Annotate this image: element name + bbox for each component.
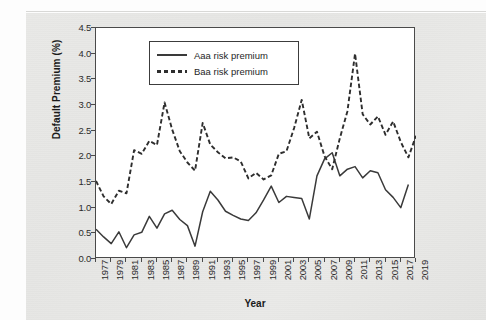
legend-item-baa: Baa risk premium xyxy=(157,63,291,79)
y-axis-tick-label: 4.5 xyxy=(78,22,91,33)
x-axis-tick-mark xyxy=(415,258,416,262)
x-axis-tick-label: 2015 xyxy=(389,260,400,280)
plot-area: Aaa risk premium Baa risk premium xyxy=(95,27,415,258)
y-axis-tick-mark xyxy=(91,53,95,54)
x-axis-tick-label: 2001 xyxy=(282,260,293,280)
x-axis-tick-mark xyxy=(186,258,187,262)
legend-line-solid-icon xyxy=(157,50,187,60)
x-axis-tick-label: 2017 xyxy=(404,260,415,280)
x-axis-tick-label: 1993 xyxy=(221,260,232,280)
x-axis-tick-label: 1989 xyxy=(190,260,201,280)
y-axis-tick-mark xyxy=(91,232,95,233)
page-canvas: Default Premium (%) 4.54.03.53.02.52.01.… xyxy=(0,0,486,320)
x-axis-tick-mark xyxy=(202,258,203,262)
y-axis-tick-label: 0.5 xyxy=(78,227,91,238)
x-axis-tick-label: 1985 xyxy=(160,260,171,280)
y-axis-tick-mark xyxy=(91,104,95,105)
y-axis-tick-label: 4.0 xyxy=(78,47,91,58)
series-line-aaa xyxy=(96,153,408,248)
chart-legend: Aaa risk premium Baa risk premium xyxy=(149,41,299,85)
x-axis-tick-label: 2019 xyxy=(419,260,430,280)
y-axis-tick-labels: 4.54.03.53.02.52.01.51.00.50.0 xyxy=(58,27,91,258)
x-axis-tick-mark xyxy=(156,258,157,262)
x-axis-tick-mark xyxy=(171,258,172,262)
y-axis-tick-mark xyxy=(91,78,95,79)
x-axis-tick-mark xyxy=(141,258,142,262)
x-axis-tick-mark xyxy=(339,258,340,262)
x-axis-tick-labels: 1977197919811983198519871989199119931995… xyxy=(95,260,415,302)
y-axis-tick-mark xyxy=(91,130,95,131)
x-axis-tick-mark xyxy=(125,258,126,262)
x-axis-tick-mark xyxy=(110,258,111,262)
x-axis-title: Year xyxy=(95,298,415,309)
legend-label-aaa: Aaa risk premium xyxy=(194,50,268,61)
y-axis-tick-mark xyxy=(91,27,95,28)
y-axis-tick-label: 3.0 xyxy=(78,99,91,110)
y-axis-tick-label: 2.0 xyxy=(78,150,91,161)
x-axis-tick-mark xyxy=(400,258,401,262)
x-axis-tick-label: 2013 xyxy=(373,260,384,280)
y-axis-tick-mark xyxy=(91,207,95,208)
x-axis-tick-label: 1977 xyxy=(99,260,110,280)
x-axis-tick-mark xyxy=(354,258,355,262)
y-axis-tick-mark xyxy=(91,155,95,156)
x-axis-tick-label: 2003 xyxy=(297,260,308,280)
page-edge-hairline xyxy=(26,11,486,12)
x-axis-tick-label: 1991 xyxy=(206,260,217,280)
x-axis-tick-label: 2009 xyxy=(343,260,354,280)
legend-item-aaa: Aaa risk premium xyxy=(157,47,291,63)
x-axis-tick-mark xyxy=(308,258,309,262)
x-axis-tick-mark xyxy=(278,258,279,262)
page-edge-left xyxy=(0,0,26,320)
x-axis-tick-label: 1983 xyxy=(145,260,156,280)
legend-line-dashed-icon xyxy=(157,66,187,76)
y-axis-tick-label: 0.0 xyxy=(78,253,91,264)
x-axis-tick-mark xyxy=(293,258,294,262)
x-axis-tick-mark xyxy=(95,258,96,262)
x-axis-tick-label: 2011 xyxy=(358,260,369,280)
x-axis-tick-mark xyxy=(369,258,370,262)
x-axis-tick-label: 1979 xyxy=(114,260,125,280)
x-axis-tick-label: 1999 xyxy=(267,260,278,280)
x-axis-tick-mark xyxy=(324,258,325,262)
y-axis-tick-label: 1.5 xyxy=(78,176,91,187)
x-axis-tick-mark xyxy=(247,258,248,262)
x-axis-tick-mark xyxy=(217,258,218,262)
x-axis-tick-mark xyxy=(232,258,233,262)
x-axis-tick-label: 1997 xyxy=(251,260,262,280)
y-axis-tick-label: 2.5 xyxy=(78,124,91,135)
x-axis-tick-label: 1987 xyxy=(175,260,186,280)
x-axis-tick-mark xyxy=(385,258,386,262)
y-axis-tick-label: 3.5 xyxy=(78,73,91,84)
x-axis-tick-label: 1995 xyxy=(236,260,247,280)
y-axis-tick-label: 1.0 xyxy=(78,201,91,212)
x-axis-tick-label: 2007 xyxy=(328,260,339,280)
y-axis-tick-mark xyxy=(91,181,95,182)
x-axis-tick-mark xyxy=(263,258,264,262)
x-axis-tick-label: 1981 xyxy=(129,260,140,280)
legend-label-baa: Baa risk premium xyxy=(194,66,268,77)
x-axis-tick-label: 2005 xyxy=(312,260,323,280)
